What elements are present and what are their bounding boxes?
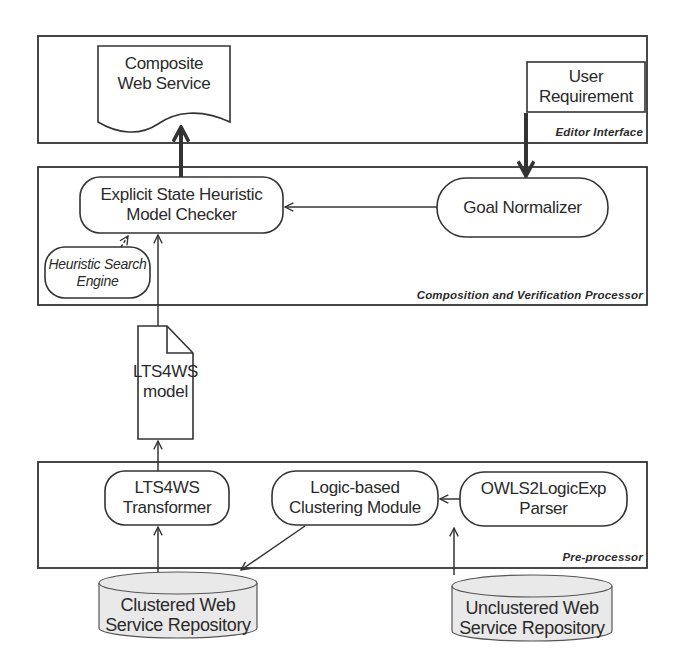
- parser-line2: Parser: [519, 499, 567, 519]
- processor-caption: Composition and Verification Processor: [417, 289, 643, 301]
- unclustered-line2: Service Repository: [459, 618, 605, 638]
- lts4ws-transformer: LTS4WS Transformer: [105, 471, 229, 525]
- arrow-hse-to-checker: [121, 236, 128, 247]
- model-checker-line1: Explicit State Heuristic: [101, 185, 263, 205]
- clustered-line1: Clustered Web: [121, 595, 236, 615]
- clustering-line2: Clustering Module: [289, 498, 421, 518]
- parser-line1: OWLS2LogicExp: [481, 479, 607, 499]
- lts-model-line2: model: [143, 382, 188, 402]
- model-checker-line2: Model Checker: [126, 205, 236, 225]
- goal-normalizer: Goal Normalizer: [437, 178, 608, 237]
- unclustered-repository: Unclustered Web Service Repository: [452, 597, 612, 639]
- model-checker: Explicit State Heuristic Model Checker: [80, 177, 283, 233]
- composite-line2: Web Service: [118, 74, 211, 94]
- lts4ws-model: LTS4WS model: [138, 360, 193, 404]
- owls-parser: OWLS2LogicExp Parser: [460, 472, 627, 526]
- composite-web-service: Composite Web Service: [98, 52, 230, 96]
- hse-line2: Engine: [77, 273, 119, 290]
- clustering-module: Logic-based Clustering Module: [272, 471, 438, 525]
- heuristic-search-engine: Heuristic Search Engine: [45, 247, 150, 298]
- clustering-line1: Logic-based: [310, 478, 399, 498]
- user-requirement-label: User Requirement: [527, 67, 645, 107]
- clustered-line2: Service Repository: [105, 615, 251, 635]
- clustered-repository: Clustered Web Service Repository: [99, 594, 257, 636]
- unclustered-line1: Unclustered Web: [465, 598, 598, 618]
- editor-interface-caption: Editor Interface: [555, 126, 643, 138]
- hse-line1: Heuristic Search: [49, 256, 147, 273]
- preprocessor-caption: Pre-processor: [562, 551, 643, 563]
- composite-line1: Composite: [125, 54, 204, 74]
- lts-model-line1: LTS4WS: [133, 362, 198, 382]
- goal-normalizer-label: Goal Normalizer: [463, 198, 581, 218]
- user-requirement: User Requirement: [527, 62, 645, 112]
- transformer-line2: Transformer: [123, 498, 212, 518]
- arrow-clustering-to-repo: [241, 526, 305, 570]
- transformer-line1: LTS4WS: [135, 478, 200, 498]
